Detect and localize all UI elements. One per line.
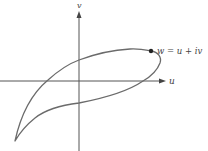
v-axis-arrow-icon — [77, 11, 82, 18]
point-w-label: w = u + iv — [157, 46, 203, 56]
u-axis-arrow-icon — [159, 79, 166, 84]
complex-plane-diagram: v u w = u + iv — [0, 0, 208, 151]
closed-curve — [15, 49, 161, 141]
u-axis-label: u — [169, 76, 175, 86]
v-axis-label: v — [77, 1, 82, 10]
point-w-marker — [149, 49, 153, 53]
